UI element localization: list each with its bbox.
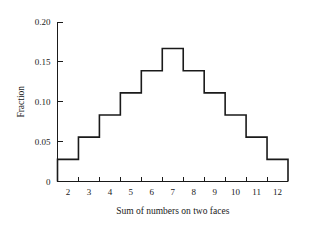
x-tick-label: 8 [191,187,196,197]
y-axis-tick-group [58,22,63,142]
x-axis-title: Sum of numbers on two faces [116,206,229,216]
y-axis-tick-labels: 00.050.100.150.20 [35,17,51,187]
x-tick-label: 12 [273,187,282,197]
x-tick-label: 2 [66,187,71,197]
y-axis-title: Fraction [16,86,26,118]
x-axis-tick-labels: 23456789101112 [66,187,282,197]
y-tick-label: 0 [46,177,51,187]
histogram-figure: 00.050.100.150.20 23456789101112 Fractio… [0,0,309,234]
histogram-step-outline [58,49,289,182]
x-tick-label: 3 [87,187,92,197]
y-tick-label: 0.20 [35,17,51,27]
chart-canvas: 00.050.100.150.20 23456789101112 Fractio… [0,0,309,234]
x-tick-label: 5 [129,187,134,197]
y-tick-label: 0.15 [35,57,51,67]
x-axis-tick-group [78,177,267,182]
y-tick-label: 0.05 [35,137,51,147]
x-tick-label: 4 [108,187,113,197]
x-tick-label: 7 [171,187,176,197]
x-tick-label: 6 [150,187,155,197]
x-tick-label: 9 [212,187,217,197]
y-tick-label: 0.10 [35,97,51,107]
x-tick-label: 11 [252,187,261,197]
x-tick-label: 10 [231,187,241,197]
